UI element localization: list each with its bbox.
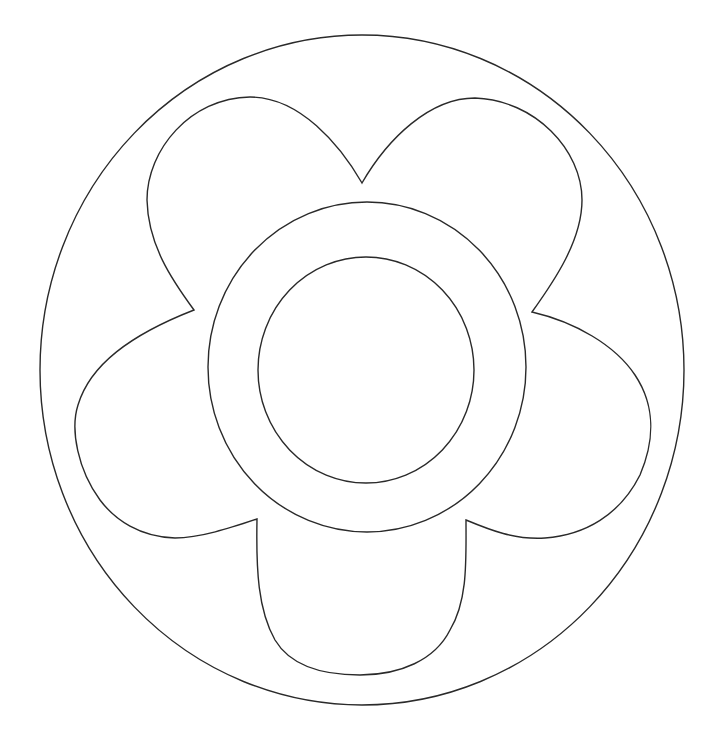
- center-inner-circle: [258, 257, 474, 483]
- flower-petals-outline: [75, 97, 651, 675]
- flower-drawing: [0, 0, 719, 740]
- coloring-page-canvas: Coloring-page line drawing of a five-pet…: [0, 0, 719, 740]
- outer-circle: [40, 35, 684, 705]
